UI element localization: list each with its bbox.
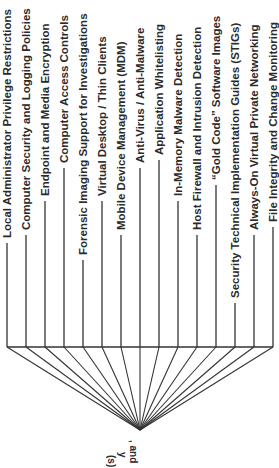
connector-line	[83, 347, 140, 430]
leaf-host-firewall-ids: Host Firewall and Intrusion Detection	[191, 27, 204, 230]
leaf-forensic-imaging: Forensic Imaging Support for Investigati…	[77, 13, 90, 255]
leaf-local-admin-privilege: Local Administrator Privilege Restrictio…	[1, 9, 14, 238]
connector-line	[140, 347, 159, 430]
connector-line	[121, 347, 140, 430]
leaf-app-whitelisting: Application Whitelisting	[153, 24, 166, 155]
leaf-file-integrity-monitoring: File Integrity and Change Monitoring	[267, 22, 279, 222]
tree-diagram: , and y (s) Local Administrator Privileg…	[0, 0, 279, 468]
root-label-line-1: , and	[128, 440, 139, 463]
connector-line	[7, 347, 140, 430]
connector-line	[140, 347, 216, 430]
leaf-in-memory-malware: In-Memory Malware Detection	[172, 34, 185, 196]
root-label-line-2: y	[117, 452, 128, 458]
connector-line	[140, 347, 273, 430]
connector-line	[140, 347, 197, 430]
leaf-gold-code-images: “Gold Code” Software Images	[210, 16, 223, 180]
root-label-line-3: (s)	[106, 455, 117, 467]
leaf-endpoint-media-encryption: Endpoint and Media Encryption	[39, 24, 52, 197]
connector-line	[45, 347, 140, 430]
leaf-stigs: Security Technical Implementation Guides…	[229, 23, 242, 298]
leaf-virtual-desktop: Virtual Desktop / Thin Clients	[96, 36, 109, 196]
leaf-mdm: Mobile Device Management (MDM)	[115, 42, 128, 231]
leaf-anti-virus: Anti-Virus / Anti-Malware	[134, 28, 147, 163]
connector-line	[140, 347, 235, 430]
connector-line	[140, 347, 254, 430]
leaf-computer-access-controls: Computer Access Controls	[58, 15, 71, 163]
connector-line	[26, 347, 140, 430]
leaf-always-on-vpn: Always-On Virtual Private Networking	[248, 24, 261, 230]
leaf-security-logging-policies: Computer Security and Logging Policies	[20, 8, 33, 230]
connector-line	[64, 347, 140, 430]
